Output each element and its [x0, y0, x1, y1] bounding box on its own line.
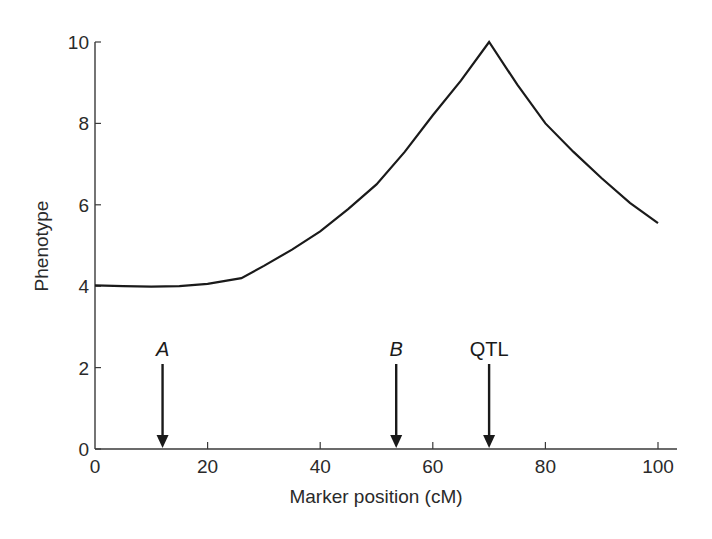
y-tick-label: 8 — [78, 113, 89, 134]
marker-label: B — [390, 338, 403, 360]
marker-a: A — [155, 338, 169, 448]
y-tick-label: 2 — [78, 358, 89, 379]
marker-annotations: ABQTL — [155, 338, 509, 448]
x-axis: 020406080100 — [90, 442, 677, 477]
x-tick-label: 40 — [310, 456, 331, 477]
arrow-down-icon — [483, 435, 495, 448]
marker-label: A — [155, 338, 169, 360]
phenotype-curve — [95, 42, 658, 287]
y-axis: 0246810 — [68, 32, 101, 460]
x-tick-label: 100 — [642, 456, 674, 477]
x-tick-label: 80 — [535, 456, 556, 477]
y-axis-title: Phenotype — [31, 201, 52, 292]
y-tick-label: 10 — [68, 32, 89, 53]
qtl-phenotype-chart: 0246810 020406080100 ABQTL Marker positi… — [0, 0, 712, 539]
marker-b: B — [390, 338, 403, 448]
x-tick-label: 0 — [90, 456, 101, 477]
y-tick-label: 0 — [78, 439, 89, 460]
marker-label: QTL — [470, 338, 509, 360]
y-tick-label: 6 — [78, 195, 89, 216]
y-tick-label: 4 — [78, 276, 89, 297]
arrow-down-icon — [157, 435, 169, 448]
x-axis-title: Marker position (cM) — [289, 486, 462, 507]
x-tick-label: 20 — [197, 456, 218, 477]
x-tick-label: 60 — [422, 456, 443, 477]
arrow-down-icon — [390, 435, 402, 448]
marker-qtl: QTL — [470, 338, 509, 448]
